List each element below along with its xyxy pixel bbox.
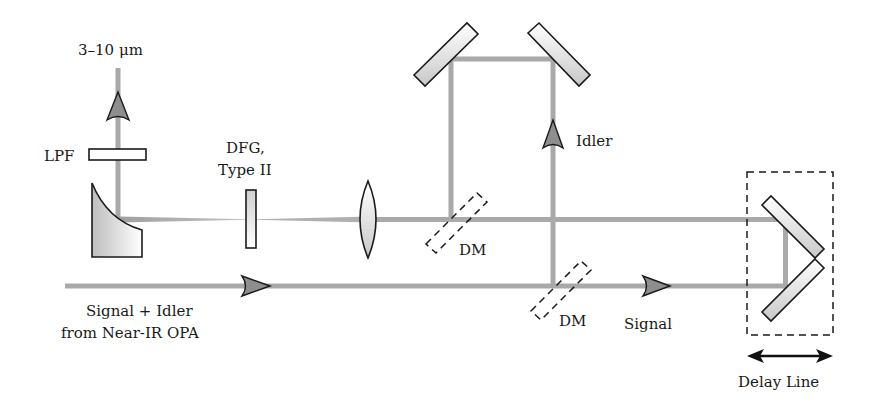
- idler-arrow-icon: [543, 120, 563, 148]
- fold-mirror-left: [414, 23, 478, 86]
- long-pass-filter: [89, 149, 146, 160]
- dfg-label-line2: Type II: [218, 161, 272, 179]
- fold-mirror-right: [528, 23, 590, 86]
- dm-lower-label: DM: [559, 312, 586, 330]
- beams: [65, 57, 788, 289]
- diverging-beam: [250, 217, 370, 223]
- optical-setup-diagram: 3–10 μm LPF DFG, Type II Idler DM DM Sig…: [0, 0, 877, 415]
- dfg-label-line1: DFG,: [226, 139, 265, 157]
- lpf-label: LPF: [44, 147, 74, 165]
- focusing-lens: [360, 181, 376, 258]
- input-label-line1: Signal + Idler: [86, 302, 193, 320]
- output-arrow-icon: [107, 92, 129, 120]
- signal-label: Signal: [624, 315, 672, 333]
- delay-line-label: Delay Line: [738, 373, 819, 391]
- delay-mirror-upper: [762, 196, 824, 258]
- focused-beam: [118, 217, 250, 223]
- input-arrow-icon: [242, 276, 270, 296]
- dfg-crystal: [246, 190, 256, 248]
- delay-mirror-lower: [762, 259, 824, 321]
- input-label-line2: from Near-IR OPA: [61, 324, 199, 342]
- idler-label: Idler: [576, 132, 613, 150]
- output-wavelength-label: 3–10 μm: [78, 41, 143, 59]
- delay-translation-arrow-icon: [747, 349, 833, 363]
- signal-arrow-icon: [643, 276, 670, 296]
- dm-upper-label: DM: [459, 241, 486, 259]
